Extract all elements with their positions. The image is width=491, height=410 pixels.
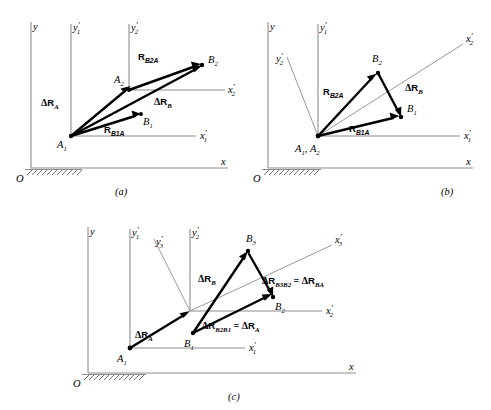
caption-a: (a) bbox=[115, 186, 128, 198]
origin-label-b: O bbox=[253, 173, 261, 184]
vectors-a bbox=[69, 62, 204, 139]
point-b1-label-a: B1 bbox=[143, 116, 153, 129]
y1-prime-axis-label-c: y′1 bbox=[131, 225, 140, 240]
x2-prime-axis-label-b: x′2 bbox=[465, 31, 474, 46]
y-axis-label-a: y bbox=[32, 21, 38, 32]
vector-rb2a-label-b: RB2A bbox=[323, 86, 344, 99]
origin-label-a: O bbox=[16, 173, 24, 184]
figure-b: y x y′1 y′2 x′1 x′2 O A1, A2 B1 B2 RB2 bbox=[245, 0, 491, 205]
vector-rb2a-label-a: RB2A bbox=[138, 51, 159, 64]
vector-delta-rb2b1-eq-delta-ra-label-c: ΔRB2B1 = ΔRA bbox=[202, 320, 260, 333]
point-b3-label-c: B3 bbox=[246, 233, 256, 246]
point-a1-label-a: A1 bbox=[56, 139, 67, 152]
y2-prime-axis-label-a: y′2 bbox=[130, 20, 139, 35]
x-axis-label-b: x bbox=[465, 156, 471, 167]
x2-prime-axis-label-a: x′2 bbox=[227, 82, 236, 97]
vector-delta-ra-label-c: ΔRA bbox=[135, 329, 153, 342]
vector-delta-rb-label-c: ΔRB bbox=[198, 273, 216, 286]
y2-prime-axis-label-c: y′2 bbox=[191, 225, 200, 240]
point-a2-label-a: A2 bbox=[113, 74, 124, 87]
x1-prime-axis-label-c: x′1 bbox=[248, 340, 257, 355]
figure-a: y x y′1 y′2 x′1 x′2 O A1 A2 B1 B2 bbox=[0, 0, 245, 205]
origin-label-c: O bbox=[73, 378, 81, 389]
frame-axes-b bbox=[287, 24, 463, 136]
x3-prime-axis-label-c: x′3 bbox=[334, 232, 343, 247]
x1-prime-axis-label-a: x′1 bbox=[199, 128, 208, 143]
vector-delta-rb-label-b: ΔRB bbox=[405, 82, 423, 95]
point-b2-label-b: B2 bbox=[372, 53, 382, 66]
ground-hatch-b bbox=[262, 170, 321, 176]
x-axis-label-c: x bbox=[348, 361, 354, 372]
x-axis-label-a: x bbox=[220, 156, 226, 167]
y1-prime-axis-label-a: y′1 bbox=[72, 20, 81, 35]
ground-hatch-a bbox=[25, 170, 82, 176]
point-b1-label-b: B1 bbox=[407, 103, 417, 116]
point-b1-label-c: B1 bbox=[184, 338, 194, 351]
figure-c: y x y′1 y′3 y′2 x′1 x′2 x′3 O A1 B1 bbox=[60, 205, 440, 410]
caption-c: (c) bbox=[228, 391, 240, 403]
point-b2-label-a: B2 bbox=[208, 54, 218, 67]
x1-prime-axis-label-b: x′1 bbox=[463, 128, 472, 143]
x2-prime-axis-label-c: x′2 bbox=[325, 303, 334, 318]
y2-prime-axis-label-b: y′2 bbox=[275, 51, 284, 66]
point-a1-label-c: A1 bbox=[116, 353, 127, 366]
vector-delta-rb3b2-eq-delta-rba-label-c: ΔRB3B2 = ΔRBA bbox=[262, 275, 324, 288]
y-axis-label-c: y bbox=[89, 226, 95, 237]
caption-b: (b) bbox=[441, 186, 454, 198]
vector-rb1a-label-a: RB1A bbox=[104, 124, 125, 137]
ground-hatch-c bbox=[82, 375, 146, 381]
y-axis-label-b: y bbox=[269, 21, 275, 32]
y3-prime-axis-label-c: y′3 bbox=[155, 234, 164, 249]
global-axes-c bbox=[88, 227, 356, 373]
vector-delta-rb-label-a: ΔRB bbox=[154, 96, 172, 109]
point-b2-label-c: B2 bbox=[275, 301, 285, 314]
vector-delta-ra-label-a: ΔRA bbox=[41, 97, 59, 110]
y1-prime-axis-label-b: y′1 bbox=[319, 20, 328, 35]
point-a1-a2-label-b: A1, A2 bbox=[294, 143, 320, 156]
